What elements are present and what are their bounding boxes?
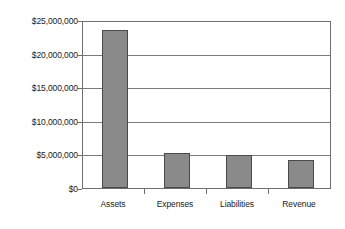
bar-assets bbox=[102, 30, 128, 188]
plot-area bbox=[82, 21, 331, 189]
y-axis-tick-label: $15,000,000 bbox=[32, 84, 78, 93]
y-axis-tick-label: $25,000,000 bbox=[32, 17, 78, 26]
x-axis-label-revenue: Revenue bbox=[268, 199, 330, 209]
y-axis-tick-label: $5,000,000 bbox=[36, 151, 78, 160]
bar-chart: $25,000,000 $20,000,000 $15,000,000 $10,… bbox=[0, 0, 345, 229]
x-axis-label-expenses: Expenses bbox=[144, 199, 206, 209]
bar-liabilities bbox=[226, 155, 252, 188]
x-axis-tick-mark bbox=[144, 189, 145, 194]
x-axis-tick-mark bbox=[206, 189, 207, 194]
x-axis-tick-mark bbox=[268, 189, 269, 194]
bar-revenue bbox=[288, 160, 314, 188]
x-axis-label-liabilities: Liabilities bbox=[206, 199, 268, 209]
y-axis-tick-label: $20,000,000 bbox=[32, 51, 78, 60]
x-axis-label-assets: Assets bbox=[82, 199, 144, 209]
y-axis-tick-mark bbox=[77, 189, 82, 190]
y-axis-tick-label: $10,000,000 bbox=[32, 118, 78, 127]
bar-expenses bbox=[164, 153, 190, 188]
